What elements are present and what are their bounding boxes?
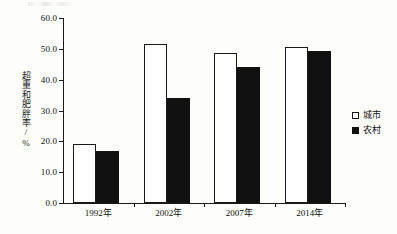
- y-tick-label: 20.0: [41, 137, 57, 146]
- y-tick-label: 40.0: [41, 75, 57, 84]
- hollow-square-icon: [352, 112, 359, 119]
- y-tick-mark: [59, 49, 63, 50]
- y-tick-label: 10.0: [41, 168, 57, 177]
- scan-artifact: [28, 2, 74, 6]
- x-tick-mark: [134, 203, 135, 207]
- y-tick-mark: [59, 80, 63, 81]
- chart-legend: 城市 农村: [352, 111, 381, 141]
- legend-item-rural: 农村: [352, 126, 381, 135]
- y-tick-label: 60.0: [41, 14, 57, 23]
- bar-rural-1992年: [96, 151, 119, 203]
- y-tick-mark: [59, 18, 63, 19]
- x-axis-label: 2002年: [155, 209, 182, 218]
- y-tick-mark: [59, 172, 63, 173]
- bar-urban-1992年: [73, 144, 96, 203]
- bar-rural-2007年: [237, 67, 260, 203]
- bar-urban-2007年: [214, 53, 237, 203]
- bar-rural-2002年: [167, 98, 190, 203]
- y-axis-line: [63, 18, 64, 203]
- x-tick-mark: [275, 203, 276, 207]
- filled-square-icon: [352, 127, 359, 134]
- x-axis-label: 2014年: [296, 209, 323, 218]
- y-tick-label: 30.0: [41, 106, 57, 115]
- plot-area: 0.010.020.030.040.050.060.0 1992年2002年20…: [63, 18, 345, 203]
- legend-label-rural: 农村: [363, 126, 381, 135]
- x-tick-mark: [204, 203, 205, 207]
- y-axis-title: 超重和肥胖率/%: [19, 50, 33, 170]
- bar-urban-2014年: [285, 47, 308, 203]
- y-tick-label: 0.0: [45, 199, 57, 208]
- y-tick-label: 50.0: [41, 44, 57, 53]
- y-tick-mark: [59, 203, 63, 204]
- bar-urban-2002年: [144, 44, 167, 203]
- y-tick-mark: [59, 111, 63, 112]
- y-tick-mark: [59, 141, 63, 142]
- x-axis-label: 1992年: [85, 209, 112, 218]
- bar-rural-2014年: [308, 51, 331, 203]
- legend-item-urban: 城市: [352, 111, 381, 120]
- x-axis-label: 2007年: [226, 209, 253, 218]
- legend-label-urban: 城市: [363, 111, 381, 120]
- chart-page: 超重和肥胖率/% 0.010.020.030.040.050.060.0 199…: [0, 0, 397, 234]
- x-tick-mark: [345, 203, 346, 207]
